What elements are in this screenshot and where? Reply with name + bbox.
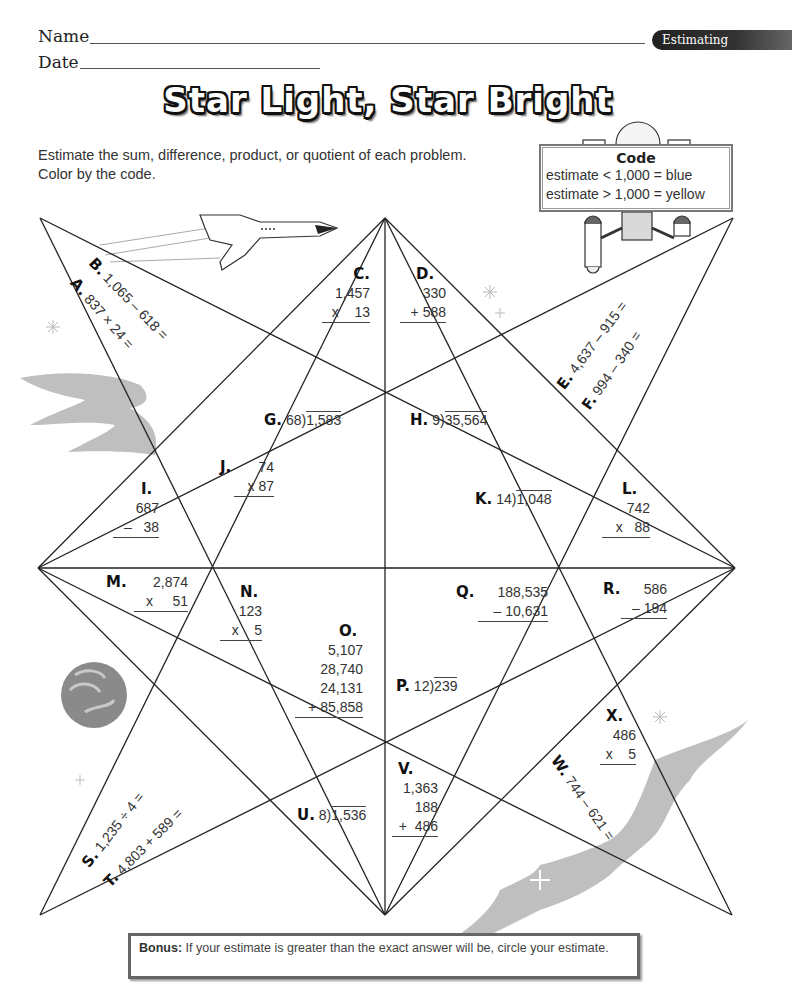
problem-C[interactable]: C. 1,457 x 13 bbox=[322, 265, 370, 323]
problem-label: I. bbox=[113, 480, 159, 499]
problem-label: O. bbox=[295, 622, 363, 641]
problem-Q[interactable]: Q.188,535 – 10,631 bbox=[456, 583, 548, 622]
divisor: 9 bbox=[432, 412, 440, 428]
operand-bottom: – 194 bbox=[621, 599, 667, 619]
bonus-text: If your estimate is greater than the exa… bbox=[186, 941, 609, 955]
operand-top: 2,874 bbox=[153, 573, 188, 592]
dividend: 1,048 bbox=[516, 490, 551, 507]
planet-icon bbox=[61, 662, 127, 728]
problem-label: K. bbox=[475, 490, 492, 508]
problem-label: L. bbox=[602, 480, 650, 499]
operand-bottom: x 51 bbox=[134, 592, 188, 612]
problem-label: V. bbox=[392, 760, 438, 779]
addend-2: 188 bbox=[392, 798, 438, 817]
bonus-label: Bonus: bbox=[139, 941, 182, 955]
problem-label: N. bbox=[220, 583, 262, 602]
operand-top: 123 bbox=[220, 602, 262, 621]
problem-label: U. bbox=[297, 806, 315, 824]
code-title: Code bbox=[541, 150, 731, 166]
code-rule-blue: estimate < 1,000 = blue bbox=[541, 166, 731, 185]
problem-K[interactable]: K. 14)1,048 bbox=[475, 490, 552, 509]
operand-bottom: x 87 bbox=[234, 477, 274, 497]
problem-label: P. bbox=[396, 677, 410, 695]
addend-4: + 85,858 bbox=[295, 698, 363, 718]
dividend: 35,564 bbox=[445, 411, 488, 428]
problem-L[interactable]: L. 742 x 88 bbox=[602, 480, 650, 538]
problem-label: M. bbox=[106, 573, 127, 591]
addend-1: 1,363 bbox=[392, 779, 438, 798]
addend-3: + 486 bbox=[392, 817, 438, 837]
operand-top: 586 bbox=[644, 580, 667, 599]
problem-label: X. bbox=[600, 707, 636, 726]
problem-label: G. bbox=[264, 411, 282, 429]
addend-3: 24,131 bbox=[295, 679, 363, 698]
dividend: 1,536 bbox=[331, 806, 366, 823]
operand-top: 687 bbox=[113, 499, 159, 518]
problem-H[interactable]: H. 9)35,564 bbox=[410, 411, 487, 430]
problem-M[interactable]: M.2,874 x 51 bbox=[106, 573, 188, 612]
divisor: 8 bbox=[319, 807, 327, 823]
problem-V[interactable]: V. 1,363 188 + 486 bbox=[392, 760, 438, 837]
space-shuttle-icon bbox=[100, 215, 337, 270]
divisor: 12 bbox=[414, 678, 430, 694]
problem-I[interactable]: I. 687 – 38 bbox=[113, 480, 159, 538]
color-code-legend: Code estimate < 1,000 = blue estimate > … bbox=[539, 144, 733, 212]
dividend: 1,583 bbox=[306, 411, 341, 428]
problem-P[interactable]: P. 12)239 bbox=[396, 677, 457, 696]
operand-top: 74 bbox=[258, 458, 274, 477]
operand-bottom: + 588 bbox=[400, 303, 446, 323]
divisor: 14 bbox=[496, 491, 512, 507]
operand-top: 330 bbox=[400, 284, 446, 303]
problem-O[interactable]: O. 5,107 28,740 24,131 + 85,858 bbox=[295, 622, 363, 718]
addend-2: 28,740 bbox=[295, 660, 363, 679]
operand-top: 1,457 bbox=[322, 284, 370, 303]
problem-G[interactable]: G. 68)1,583 bbox=[264, 411, 341, 430]
problem-label: J. bbox=[220, 458, 231, 476]
problem-label: C. bbox=[322, 265, 370, 284]
problem-R[interactable]: R.586 – 194 bbox=[603, 580, 667, 619]
operand-bottom: x 13 bbox=[322, 303, 370, 323]
problem-label: Q. bbox=[456, 583, 474, 601]
operand-bottom: – 10,631 bbox=[478, 602, 548, 622]
problem-D[interactable]: D. 330 + 588 bbox=[400, 265, 446, 323]
problem-N[interactable]: N. 123 x 5 bbox=[220, 583, 262, 641]
code-rule-yellow: estimate > 1,000 = yellow bbox=[541, 185, 731, 204]
operand-top: 188,535 bbox=[497, 583, 548, 602]
operand-bottom: x 5 bbox=[220, 621, 262, 641]
operand-top: 742 bbox=[602, 499, 650, 518]
operand-top: 486 bbox=[600, 726, 636, 745]
divisor: 68 bbox=[286, 412, 302, 428]
dividend: 239 bbox=[434, 677, 457, 694]
problem-label: R. bbox=[603, 580, 621, 598]
problem-label: H. bbox=[410, 411, 428, 429]
problem-U[interactable]: U. 8)1,536 bbox=[297, 806, 366, 825]
operand-bottom: x 88 bbox=[602, 518, 650, 538]
bonus-box: Bonus: If your estimate is greater than … bbox=[128, 933, 640, 979]
addend-1: 5,107 bbox=[295, 641, 363, 660]
operand-bottom: x 5 bbox=[600, 745, 636, 765]
operand-bottom: – 38 bbox=[113, 518, 159, 538]
problem-J[interactable]: J.74 x 87 bbox=[220, 458, 274, 497]
problem-label: D. bbox=[400, 265, 446, 284]
problem-X[interactable]: X. 486 x 5 bbox=[600, 707, 636, 765]
